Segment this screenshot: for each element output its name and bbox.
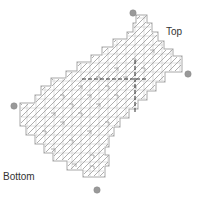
marker-left [11,103,17,109]
marker-top-left [130,10,136,16]
label-top: Top [166,27,182,37]
marker-right [185,71,191,77]
label-bottom: Bottom [3,172,35,182]
marker-bottom [94,187,100,193]
